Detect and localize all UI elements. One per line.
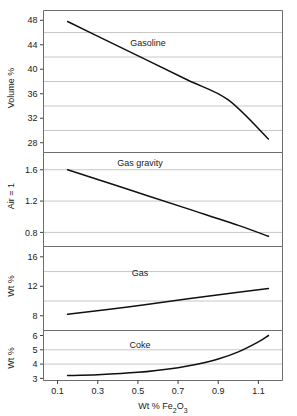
xtick-label-1.1: 1.1 [252,386,265,396]
ytick-label-coke-5: 5 [32,345,37,355]
ytick-label-gas-gravity-1.6: 1.6 [25,165,38,175]
ytick-label-coke-4: 4 [32,359,37,369]
ytick-label-gasoline-40: 40 [27,64,37,74]
data-line-coke [68,336,269,376]
data-line-gas-gravity [68,170,269,237]
ytick-label-coke-6: 6 [32,331,37,341]
ytick-label-coke-3: 3 [32,374,37,384]
data-line-gasoline [68,22,269,140]
ytick-label-gasoline-32: 32 [27,113,37,123]
xtick-label-0.5: 0.5 [132,386,145,396]
ytick-label-gas-16: 16 [27,252,37,262]
y-axis-label-1: Volume % [6,68,16,109]
ytick-label-gasoline-44: 44 [27,40,37,50]
series-label-gasoline: Gasoline [130,38,166,48]
ytick-label-gas-12: 12 [27,281,37,291]
xtick-label-0.9: 0.9 [212,386,225,396]
y-axis-label-2: Air = 1 [6,183,16,209]
x-axis-label: Wt % Fe2O3 [138,401,187,414]
ytick-label-gas-8: 8 [32,311,37,321]
series-label-gas-gravity: Gas gravity [117,158,163,168]
xtick-label-0.7: 0.7 [172,386,185,396]
ytick-label-gas-gravity-1.2: 1.2 [25,196,38,206]
y-axis-label-3: Wt % [6,275,16,297]
ytick-label-gasoline-36: 36 [27,89,37,99]
xtick-label-0.1: 0.1 [51,386,64,396]
ytick-label-gas-gravity-0.8: 0.8 [25,228,38,238]
xtick-label-0.3: 0.3 [91,386,104,396]
y-axis-label-4: Wt % [6,347,16,369]
chart-canvas: 484440363228Gasoline1.61.20.8Gas gravity… [0,0,297,416]
ytick-label-gasoline-28: 28 [27,138,37,148]
ytick-label-gasoline-48: 48 [27,15,37,25]
series-label-coke: Coke [129,340,150,350]
series-label-gas: Gas [132,268,149,278]
figure-multi-panel-chart: 484440363228Gasoline1.61.20.8Gas gravity… [0,0,297,416]
